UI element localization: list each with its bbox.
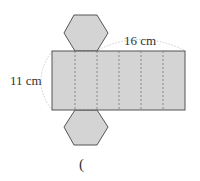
height-label: 11 cm	[10, 73, 42, 89]
width-label: 16 cm	[124, 33, 156, 49]
lateral-rectangle	[52, 51, 185, 110]
bottom-hexagon-base	[64, 110, 108, 145]
height-arc	[41, 51, 52, 110]
top-hexagon-base	[64, 15, 108, 51]
answer-paren: (	[79, 156, 84, 173]
net-drawing	[0, 0, 200, 181]
